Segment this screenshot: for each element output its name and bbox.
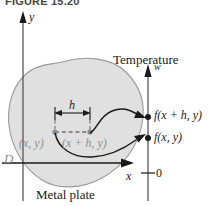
figure-container: FIGURE 15.20 y x w 0 Temperature Metal p… [0,0,212,206]
y-axis-label: y [29,11,34,23]
y-axis-arrowhead [19,11,26,23]
point-base-label: (x, y) [19,137,44,149]
metal-plate-region [9,58,144,187]
x-axis-arrowhead [121,159,134,168]
metal-plate-label: Metal plate [36,188,95,201]
value-dot-shifted [145,114,151,120]
temperature-axis-title: Temperature [113,53,179,66]
value-shifted-label: f(x + h, y) [154,109,202,121]
value-base-label: f(x, y) [154,131,182,143]
increment-h-label: h [69,99,75,111]
figure-caption: FIGURE 15.20 [5,0,80,7]
w-axis-origin-label: 0 [156,167,162,179]
value-dot-base [145,135,151,141]
point-shifted-label: (x + h, y) [62,137,107,149]
x-axis-label: x [126,170,131,182]
domain-region-label: D [4,152,13,165]
figure-graphic [0,0,212,206]
